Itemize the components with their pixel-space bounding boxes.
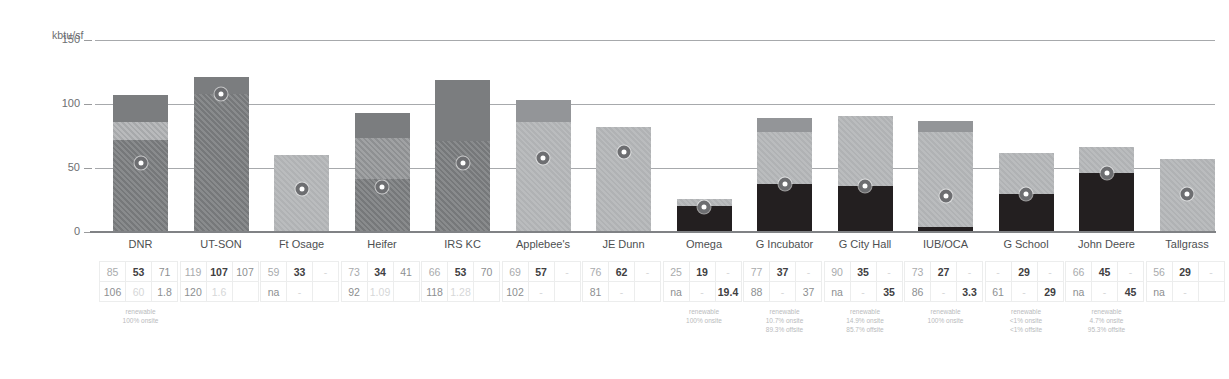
renewable-annotation-line: 85.7% offsite [825, 325, 906, 334]
table-cell [554, 281, 581, 302]
bar-ft-osage[interactable] [274, 155, 329, 231]
table-group-tallgrass: 5629-na- [1147, 262, 1228, 302]
table-cell: 45 [1091, 261, 1118, 282]
bar-marker-dot[interactable] [859, 180, 872, 193]
renewable-annotation-line: renewable [744, 307, 825, 316]
table-cell: - [286, 281, 313, 302]
bar-je-dunn[interactable] [596, 127, 651, 231]
table-group-g-city-hall: 9035-na-35renewable14.9% onsite85.7% off… [825, 262, 906, 334]
bar-dnr[interactable] [113, 95, 168, 231]
bar-segment [918, 227, 973, 231]
bar-irs-kc[interactable] [435, 80, 490, 231]
bar-segment [435, 80, 490, 141]
bar-g-city-hall[interactable] [838, 116, 893, 231]
table-cell: 85 [99, 261, 126, 282]
renewable-annotation-line: renewable [1066, 307, 1147, 316]
table-cell: 3.3 [956, 281, 983, 302]
category-label-omega: Omega [659, 238, 749, 250]
bar-omega[interactable] [677, 199, 732, 231]
table-row: 5629- [1147, 262, 1228, 282]
category-label-iub-oca: IUB/OCA [901, 238, 991, 250]
table-cell: 41 [393, 261, 420, 282]
table-cell: 92 [341, 281, 368, 302]
bar-marker-dot[interactable] [1020, 187, 1033, 200]
bar-g-school[interactable] [999, 153, 1054, 231]
table-cell: 66 [1065, 261, 1092, 282]
table-cell: 1.6 [206, 281, 233, 302]
bar-marker-dot[interactable] [939, 190, 952, 203]
bar-marker-dot[interactable] [537, 152, 550, 165]
table-cell: 69 [502, 261, 529, 282]
bar-segment [1079, 173, 1134, 231]
category-label-g-school: G School [981, 238, 1071, 250]
bar-g-incubator[interactable] [757, 118, 812, 231]
table-cell: 53 [125, 261, 152, 282]
bar-heifer[interactable] [355, 113, 410, 231]
bar-tallgrass[interactable] [1160, 159, 1215, 231]
table-cell: 1.8 [151, 281, 178, 302]
table-cell: 33 [286, 261, 313, 282]
table-cell: - [1117, 261, 1144, 282]
table-cell: 81 [582, 281, 609, 302]
bar-marker-dot[interactable] [698, 200, 711, 213]
bar-john-deere[interactable] [1079, 147, 1134, 231]
table-row: na- [261, 282, 342, 302]
table-cell: - [1037, 261, 1064, 282]
y-axis-tick-label: 100 [40, 97, 80, 109]
table-cell [1198, 281, 1225, 302]
table-cell: - [1172, 281, 1199, 302]
bar-marker-dot[interactable] [376, 181, 389, 194]
renewable-annotation-line: 4.7% onsite [1066, 316, 1147, 325]
bar-marker-dot[interactable] [295, 182, 308, 195]
category-label-g-incubator: G Incubator [740, 238, 830, 250]
renewable-annotation-line: 95.3% offsite [1066, 325, 1147, 334]
table-cell: 61 [985, 281, 1012, 302]
table-cell: 86 [904, 281, 931, 302]
table-cell [232, 281, 259, 302]
bar-segment [435, 141, 490, 231]
gridline [95, 104, 1215, 105]
table-row: -29- [986, 262, 1067, 282]
table-cell: 53 [447, 261, 474, 282]
bar-applebee-s[interactable] [516, 100, 571, 231]
table-cell: 119 [180, 261, 207, 282]
bar-marker-dot[interactable] [134, 157, 147, 170]
renewable-annotation-line: 14.9% onsite [825, 316, 906, 325]
table-cell: 35 [850, 261, 877, 282]
table-cell: na [1065, 281, 1092, 302]
table-cell: 102 [502, 281, 529, 302]
table-cell: 29 [1172, 261, 1199, 282]
bar-marker-dot[interactable] [1100, 167, 1113, 180]
table-cell: 62 [608, 261, 635, 282]
renewable-annotation-line: 100% onsite [100, 316, 181, 325]
renewable-annotation-line: renewable [100, 307, 181, 316]
category-label-g-city-hall: G City Hall [820, 238, 910, 250]
table-row: na-45 [1066, 282, 1147, 302]
table-cell: 57 [528, 261, 555, 282]
table-cell: 19 [689, 261, 716, 282]
table-row: 1181.28 [422, 282, 503, 302]
renewable-annotation: renewable100% onsite [664, 307, 745, 325]
bar-iub-oca[interactable] [918, 121, 973, 231]
chart-root: kbtu/sf 050100150 DNRUT-SONFt OsageHeife… [0, 0, 1229, 379]
bar-marker-dot[interactable] [1181, 187, 1194, 200]
category-label-dnr: DNR [96, 238, 186, 250]
bar-segment [516, 100, 571, 122]
bar-marker-dot[interactable] [778, 177, 791, 190]
bar-marker-dot[interactable] [456, 157, 469, 170]
table-row: 86-3.3 [905, 282, 986, 302]
table-row: na-35 [825, 282, 906, 302]
renewable-annotation-line: renewable [986, 307, 1067, 316]
table-cell: na [260, 281, 287, 302]
bar-marker-dot[interactable] [617, 145, 630, 158]
renewable-annotation-line: 10.7% onsite [744, 316, 825, 325]
table-cell: 56 [1146, 261, 1173, 282]
category-label-ut-son: UT-SON [176, 238, 266, 250]
bar-marker-dot[interactable] [215, 88, 228, 101]
table-row: na- [1147, 282, 1228, 302]
table-cell: 88 [743, 281, 770, 302]
table-group-heifer: 733441921.09 [342, 262, 423, 302]
renewable-annotation: renewable100% onsite [905, 307, 986, 325]
bar-ut-son[interactable] [194, 77, 249, 231]
table-cell: - [715, 261, 742, 282]
